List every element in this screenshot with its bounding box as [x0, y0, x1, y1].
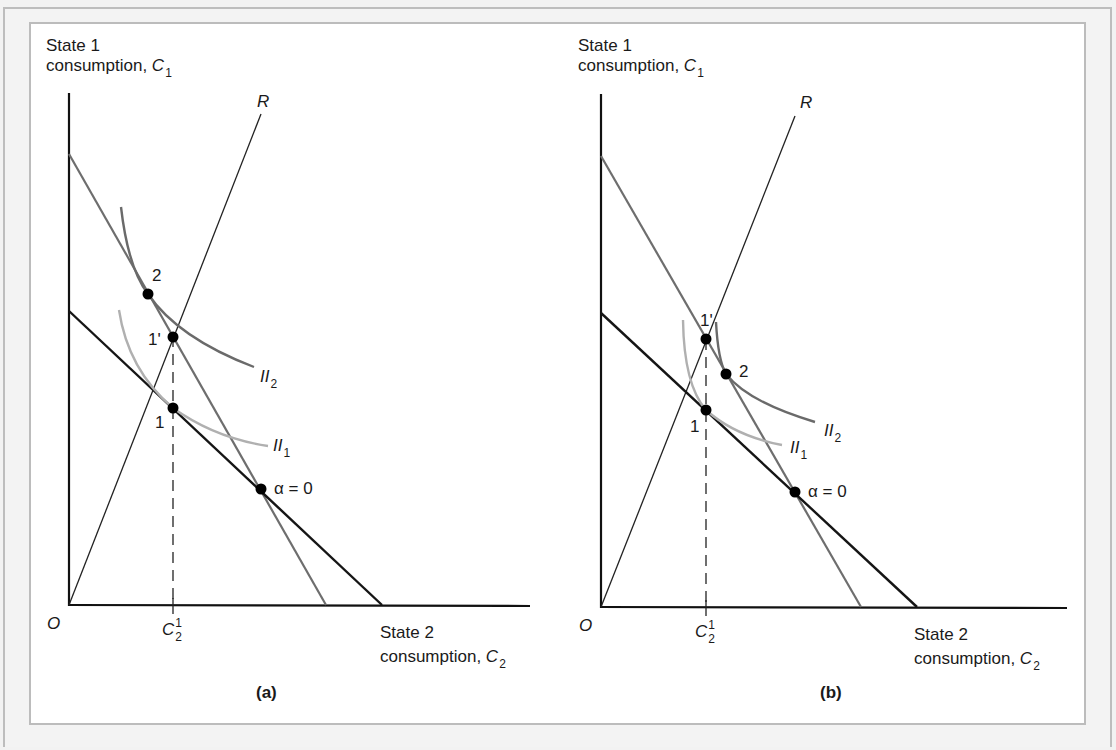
tick-scripts: 12 [707, 622, 715, 643]
panel-b-point-1-label: 1 [690, 417, 699, 437]
panel-b-point-1prime-label: 1' [700, 311, 713, 331]
x-axis-var: C [1020, 649, 1032, 668]
tick-scripts: 12 [174, 620, 182, 641]
panel-a-point-1prime-label: 1' [148, 330, 161, 350]
panel-a-point-2-label: 2 [152, 266, 161, 286]
x-axis-label-line2: consumption, C2 [380, 647, 506, 668]
panel-b-point-2-label: 2 [739, 362, 748, 382]
y-axis-label-line1: State 1 [46, 36, 172, 56]
x-axis-sub: 2 [1033, 659, 1040, 673]
x-axis-var: C [486, 647, 498, 666]
tick-var: C [162, 620, 174, 639]
tick-var: C [695, 622, 707, 641]
panel-b-x-axis-label: State 2 consumption, C2 [914, 625, 1040, 670]
curve-sub: 1 [283, 446, 290, 460]
y-axis-sub: 1 [165, 66, 172, 80]
panel-b-steep-line [601, 156, 861, 607]
panel-b-point-alpha0 [790, 487, 801, 498]
curve-sub: 2 [834, 431, 841, 445]
panel-b-ii2-label: II2 [824, 421, 841, 442]
tick-sub: 2 [708, 632, 715, 646]
panel-a-y-axis-label: State 1 consumption, C1 [46, 36, 172, 77]
panel-b-point-1 [701, 405, 712, 416]
y-axis-label-line1: State 1 [578, 36, 704, 56]
panel-a-ii1-label: II1 [273, 436, 290, 457]
panel-b-caption: (b) [820, 683, 842, 703]
panel-a-x-axis [68, 605, 530, 606]
panel-a-point-1-label: 1 [155, 413, 164, 433]
panel-b-point-1prime [701, 334, 712, 345]
x-axis-label-text: consumption, [380, 647, 486, 666]
y-axis-var: C [152, 56, 164, 75]
x-axis-label-text: consumption, [914, 649, 1020, 668]
curve-var: II [273, 436, 282, 455]
panel-b-budget-line [601, 313, 917, 607]
x-axis-sub: 2 [499, 657, 506, 671]
y-axis-label-line2: consumption, C1 [578, 56, 704, 77]
panel-a-graph [68, 93, 530, 614]
panel-b-point-2 [721, 369, 732, 380]
panel-a-point-alpha0-label: α = 0 [274, 479, 313, 499]
y-axis-var: C [684, 56, 696, 75]
panel-a-ray-label: R [257, 92, 269, 112]
y-axis-label-text: consumption, [46, 56, 152, 75]
tick-sub: 2 [175, 630, 182, 644]
panel-a-point-1 [168, 403, 179, 414]
panel-a-tick-label: C12 [162, 620, 182, 641]
panel-a-ii2-label: II2 [260, 367, 277, 388]
panel-a-ii2-curve [121, 207, 254, 367]
y-axis-label-text: consumption, [578, 56, 684, 75]
x-axis-label-line1: State 2 [914, 625, 1040, 645]
x-axis-label-line2: consumption, C2 [914, 649, 1040, 670]
panel-a-point-alpha0 [256, 484, 267, 495]
panel-a-point-1prime [168, 332, 179, 343]
panel-b-graph [600, 94, 1067, 616]
panel-b-tick-label: C12 [695, 622, 715, 643]
panel-b-ray-label: R [800, 93, 812, 113]
panel-b-origin-label: O [579, 616, 592, 636]
panel-a-point-2 [143, 289, 154, 300]
y-axis-sub: 1 [697, 66, 704, 80]
curve-var: II [824, 421, 833, 440]
panel-a-caption: (a) [256, 683, 277, 703]
panel-b-ray-r [601, 116, 795, 607]
curve-sub: 1 [800, 448, 807, 462]
panel-a-ray-r [69, 114, 261, 605]
curve-var: II [790, 438, 799, 457]
panel-b-x-axis [600, 607, 1067, 608]
panel-a-origin-label: O [47, 614, 60, 634]
curve-sub: 2 [270, 377, 277, 391]
panel-b-point-alpha0-label: α = 0 [808, 482, 847, 502]
panel-a-x-axis-label: State 2 consumption, C2 [380, 623, 506, 668]
panel-a-steep-line [69, 154, 326, 605]
y-axis-label-line2: consumption, C1 [46, 56, 172, 77]
x-axis-label-line1: State 2 [380, 623, 506, 643]
panel-b-ii1-label: II1 [790, 438, 807, 459]
panel-b-y-axis-label: State 1 consumption, C1 [578, 36, 704, 77]
curve-var: II [260, 367, 269, 386]
